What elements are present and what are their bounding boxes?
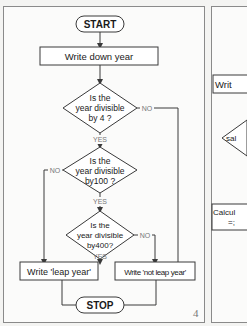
svg-text:Is the: Is the xyxy=(90,221,110,230)
svg-text:Is the: Is the xyxy=(90,156,111,166)
svg-text:year divisible: year divisible xyxy=(77,231,124,240)
svg-text:by 4 ?: by 4 ? xyxy=(88,113,111,123)
start-label: START xyxy=(84,19,117,30)
svg-text:by400?: by400? xyxy=(87,241,114,250)
flowchart-diagram: START Write down year Is the year divisi… xyxy=(0,0,247,326)
stop-label: STOP xyxy=(86,300,113,311)
yes-label-2: YES xyxy=(93,198,107,205)
write-not-leap-year-label: Write 'not leap year' xyxy=(124,268,187,277)
svg-text:by100 ?: by100 ? xyxy=(85,176,116,186)
yes-label-1: YES xyxy=(93,136,107,143)
write-year-label: Write down year xyxy=(65,51,133,62)
write-leap-year-label: Write 'leap year' xyxy=(27,267,91,277)
right-diamond-label: sal xyxy=(226,134,236,143)
svg-text:year divisible: year divisible xyxy=(75,103,124,113)
no-label-1: NO xyxy=(142,105,153,112)
right-box2-line1: Calcul xyxy=(213,208,235,217)
no-label-3: NO xyxy=(140,232,151,239)
yes-label-3: YES xyxy=(93,253,107,260)
page-number: 4 xyxy=(193,307,199,319)
right-box2-line2: =; xyxy=(228,218,235,227)
right-box1-label: Writ xyxy=(215,79,232,90)
svg-text:Is the: Is the xyxy=(90,93,111,103)
no-label-2: NO xyxy=(50,167,61,174)
svg-text:year divisible: year divisible xyxy=(75,166,124,176)
